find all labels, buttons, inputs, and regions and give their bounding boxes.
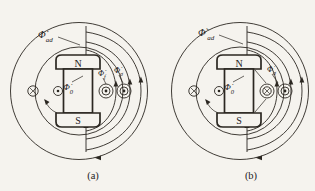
conductor-ring-dot-icon [278,84,292,98]
flux-f-label: Φ̇f [98,69,107,80]
conductor-ring-dot-icon [99,84,113,98]
machine-diagram-b: N S [157,0,315,191]
yoke-flux-arrow [256,155,262,160]
conductor-cross-icon [189,86,199,96]
yoke-flux-arrow [95,155,101,160]
conductor-cross-icon [28,86,38,96]
conductor-dot-icon [54,87,63,96]
caption-b: (b) [245,170,258,182]
conductor-ring-dot-icon [117,84,131,98]
flux-ad-leader [219,35,243,44]
rotation-arrow [42,97,57,113]
figure-page: N S [0,0,315,191]
south-pole-label: S [236,115,242,126]
conductor-dot-icon [215,87,224,96]
north-pole-label: N [74,58,81,69]
pole-tip-leakage-path [255,70,266,112]
machine-diagram-a: N S [0,0,158,191]
flux-ad-label: Φ̇ad [38,29,53,44]
conductor-ring-cross-icon [260,84,274,98]
south-pole-label: S [75,115,81,126]
north-pole-label: N [235,58,242,69]
caption-a: (a) [87,170,99,182]
rotation-arrow [203,97,218,113]
flux-ad-leader [58,37,80,45]
